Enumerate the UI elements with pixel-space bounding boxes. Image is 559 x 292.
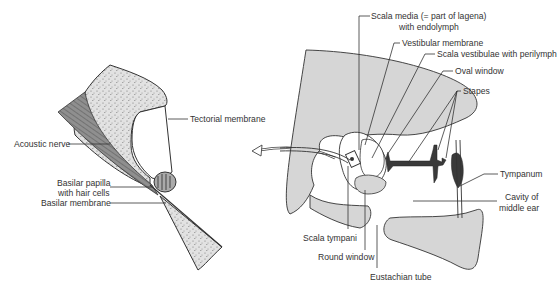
label-basilar-papilla-2: with hair cells <box>57 188 110 198</box>
label-tectorial-membrane: Tectorial membrane <box>190 114 266 124</box>
round-window-lobe <box>355 175 386 194</box>
ear-diagram: Tectorial membrane Acoustic nerve Basila… <box>0 0 559 292</box>
label-acoustic-nerve: Acoustic nerve <box>14 139 71 149</box>
label-round-window: Round window <box>318 252 375 262</box>
lower-tissue <box>160 196 222 270</box>
left-lower-bone <box>310 195 371 228</box>
scala-vestibulae-body <box>360 139 384 178</box>
papilla-enlargement <box>58 65 222 270</box>
label-basilar-papilla: Basilar papilla <box>57 178 111 188</box>
label-basilar-membrane: Basilar membrane <box>41 198 111 208</box>
label-vestibular-membrane: Vestibular membrane <box>402 38 483 48</box>
label-oval-window: Oval window <box>455 66 505 76</box>
label-stapes: Stapes <box>463 86 490 96</box>
right-lower-bone <box>384 209 483 269</box>
label-eustachian-tube: Eustachian tube <box>370 272 432 282</box>
label-scala-tympani: Scala tympani <box>303 233 357 243</box>
label-cavity-middle-ear: Cavity of <box>505 192 539 202</box>
label-cavity-middle-ear-2: middle ear <box>499 203 539 213</box>
label-scala-media-2: with endolymph <box>398 22 459 32</box>
label-scala-media: Scala media (= part of lagena) <box>371 11 487 21</box>
label-scala-vestibulae: Scala vestibulae with perilymph <box>437 49 557 59</box>
label-tympanum: Tympanum <box>500 169 543 179</box>
basilar-papilla <box>154 172 176 192</box>
